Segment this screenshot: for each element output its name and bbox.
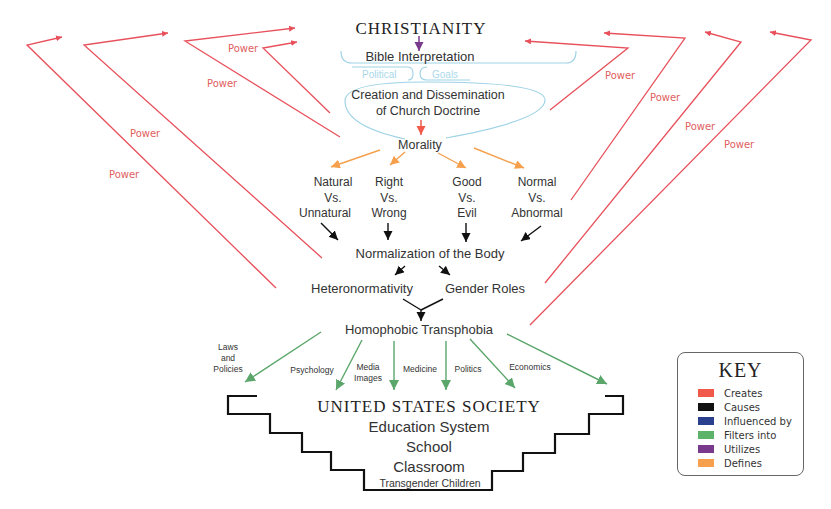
dichotomy-good: Good Vs. Evil bbox=[452, 175, 481, 220]
swatch-black bbox=[698, 403, 714, 411]
svg-text:Good: Good bbox=[452, 175, 481, 189]
svg-text:Images: Images bbox=[354, 373, 382, 383]
node-united-states-society: UNITED STATES SOCIETY bbox=[317, 397, 541, 416]
legend-item-causes: Causes bbox=[698, 400, 803, 414]
power-lines-right bbox=[525, 32, 811, 325]
svg-text:Laws: Laws bbox=[218, 342, 238, 352]
power-label: Power bbox=[228, 43, 259, 54]
power-arrow-2 bbox=[84, 33, 322, 258]
merge-arrow bbox=[403, 299, 443, 321]
svg-text:Psychology: Psychology bbox=[290, 365, 334, 375]
svg-text:Abnormal: Abnormal bbox=[511, 206, 562, 220]
svg-text:Policies: Policies bbox=[213, 364, 242, 374]
swatch-orange bbox=[698, 459, 714, 467]
svg-text:Normal: Normal bbox=[518, 175, 557, 189]
svg-text:Media: Media bbox=[356, 362, 379, 372]
node-classroom: Classroom bbox=[393, 458, 465, 475]
svg-text:and: and bbox=[221, 353, 235, 363]
dichotomy-right: Right Vs. Wrong bbox=[371, 175, 406, 220]
power-lines-left bbox=[27, 28, 340, 288]
power-arrow-7 bbox=[545, 32, 741, 283]
svg-text:Natural: Natural bbox=[314, 175, 353, 189]
node-doctrine-line1: Creation and Dissemination bbox=[351, 88, 505, 102]
node-homophobic-transphobia: Homophobic Transphobia bbox=[345, 322, 494, 337]
legend-title: KEY bbox=[678, 359, 803, 382]
svg-text:Vs.: Vs. bbox=[324, 191, 341, 205]
node-doctrine-line2: of Church Doctrine bbox=[376, 104, 480, 118]
dichotomy-normal: Normal Vs. Abnormal bbox=[511, 175, 562, 220]
swatch-green bbox=[698, 431, 714, 439]
svg-text:Unnatural: Unnatural bbox=[299, 206, 351, 220]
svg-text:Wrong: Wrong bbox=[371, 206, 406, 220]
node-normalization: Normalization of the Body bbox=[356, 246, 505, 261]
label-goals: Goals bbox=[432, 69, 458, 80]
svg-text:Evil: Evil bbox=[457, 206, 476, 220]
legend-item-creates: Creates bbox=[698, 386, 803, 400]
power-label: Power bbox=[724, 139, 755, 150]
swatch-purple bbox=[698, 445, 714, 453]
legend-item-defines: Defines bbox=[698, 456, 803, 470]
power-label: Power bbox=[207, 78, 238, 89]
legend-list: Creates Causes Influenced by Filters int… bbox=[698, 386, 803, 470]
node-heteronormativity: Heteronormativity bbox=[311, 281, 413, 296]
power-arrow-8 bbox=[530, 32, 811, 325]
swatch-blue bbox=[698, 417, 714, 425]
channel-labels: Laws and Policies Psychology Media Image… bbox=[213, 342, 550, 383]
node-bible-interpretation: Bible Interpretation bbox=[365, 49, 474, 64]
svg-text:Vs.: Vs. bbox=[380, 191, 397, 205]
node-gender-roles: Gender Roles bbox=[445, 281, 526, 296]
legend-item-utilizes: Utilizes bbox=[698, 442, 803, 456]
node-morality: Morality bbox=[398, 138, 443, 152]
power-label: Power bbox=[605, 70, 636, 81]
power-label: Power bbox=[130, 128, 161, 139]
svg-text:Medicine: Medicine bbox=[403, 364, 437, 374]
normalization-arrows bbox=[395, 266, 450, 275]
svg-text:Politics: Politics bbox=[455, 364, 482, 374]
svg-text:Vs.: Vs. bbox=[528, 191, 545, 205]
svg-text:Right: Right bbox=[375, 175, 404, 189]
power-label: Power bbox=[685, 121, 716, 132]
node-transgender-children: Transgender Children bbox=[379, 477, 480, 489]
legend-item-filters-into: Filters into bbox=[698, 428, 803, 442]
node-school: School bbox=[406, 438, 452, 455]
legend-key: KEY Creates Causes Influenced by Filters… bbox=[677, 352, 804, 476]
power-label: Power bbox=[109, 169, 140, 180]
swatch-red bbox=[698, 389, 714, 397]
node-education-system: Education System bbox=[369, 418, 490, 435]
svg-text:Vs.: Vs. bbox=[458, 191, 475, 205]
title-christianity: CHRISTIANITY bbox=[356, 19, 487, 38]
causes-arrows bbox=[321, 223, 541, 242]
power-arrow-6 bbox=[571, 33, 685, 200]
filters-into-arrows bbox=[245, 332, 607, 390]
legend-item-influenced-by: Influenced by bbox=[698, 414, 803, 428]
dichotomy-natural: Natural Vs. Unnatural bbox=[299, 175, 352, 220]
power-arrow-4 bbox=[263, 42, 330, 113]
svg-text:Economics: Economics bbox=[509, 362, 551, 372]
power-label: Power bbox=[650, 92, 681, 103]
label-political: Political bbox=[362, 69, 396, 80]
